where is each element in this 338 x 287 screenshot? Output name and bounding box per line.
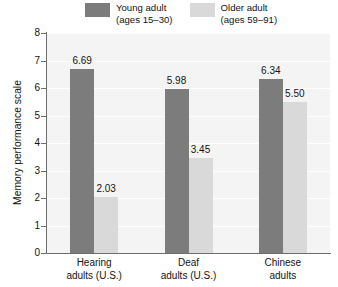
bar-value-label: 6.34 xyxy=(251,66,291,76)
category-label-line: Chinese xyxy=(264,257,301,270)
y-tick-mark xyxy=(41,116,47,117)
bar-value-label: 3.45 xyxy=(181,145,221,155)
legend-label-older-adult-line1: Older adult xyxy=(221,2,278,14)
category-label-line: adults xyxy=(269,270,296,283)
category-label-2: Chineseadults xyxy=(236,257,330,287)
legend-label-older-adult-line2: (ages 59–91) xyxy=(221,14,278,26)
bar-young-adult xyxy=(70,69,94,253)
plot-area: 6.692.035.983.456.345.50 xyxy=(47,33,330,253)
y-tick-mark xyxy=(41,61,47,62)
category-label-1: Deafadults (U.S.) xyxy=(141,257,235,287)
y-tick-mark xyxy=(41,171,47,172)
bar-value-label: 5.50 xyxy=(275,89,315,99)
legend-swatch-young-adult xyxy=(85,3,110,17)
y-tick-mark xyxy=(41,198,47,199)
x-axis-category-labels: Hearingadults (U.S.)Deafadults (U.S.)Chi… xyxy=(47,257,330,287)
gridline xyxy=(47,33,330,34)
bar-value-label: 2.03 xyxy=(86,184,126,194)
bar-older-adult xyxy=(189,158,213,253)
y-tick-mark xyxy=(41,253,47,254)
x-axis-line xyxy=(46,253,331,254)
legend-swatch-older-adult xyxy=(190,3,215,17)
bar-older-adult xyxy=(283,102,307,253)
legend-entry-young-adult: Young adult (ages 15–30) xyxy=(85,2,173,25)
legend-label-older-adult: Older adult (ages 59–91) xyxy=(221,2,278,25)
y-tick-mark xyxy=(41,33,47,34)
category-label-line: adults (U.S.) xyxy=(66,270,122,283)
chart-legend: Young adult (ages 15–30) Older adult (ag… xyxy=(85,2,335,28)
bar-value-label: 6.69 xyxy=(62,56,102,66)
y-tick-mark xyxy=(41,226,47,227)
category-label-line: Deaf xyxy=(178,257,199,270)
y-tick-mark xyxy=(41,143,47,144)
y-axis-title: Memory performance scale xyxy=(12,33,23,253)
legend-label-young-adult-line1: Young adult xyxy=(116,2,173,14)
y-tick-mark xyxy=(41,88,47,89)
category-label-line: Hearing xyxy=(77,257,112,270)
category-label-0: Hearingadults (U.S.) xyxy=(47,257,141,287)
legend-entry-older-adult: Older adult (ages 59–91) xyxy=(190,2,278,25)
bar-older-adult xyxy=(94,197,118,253)
legend-label-young-adult: Young adult (ages 15–30) xyxy=(116,2,173,25)
bar-value-label: 5.98 xyxy=(157,76,197,86)
legend-label-young-adult-line2: (ages 15–30) xyxy=(116,14,173,26)
bar-young-adult xyxy=(259,79,283,253)
category-label-line: adults (U.S.) xyxy=(161,270,217,283)
bar-young-adult xyxy=(165,89,189,253)
